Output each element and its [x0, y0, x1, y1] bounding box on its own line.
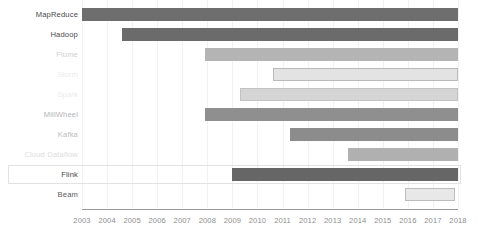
bar-flink[interactable] [232, 168, 458, 181]
gridline-2003 [82, 0, 83, 208]
gridline-2018 [458, 0, 459, 208]
bar-mapreduce[interactable] [82, 8, 458, 21]
category-label-column: MapReduceHadoopFlumeStormSparkMillWheelK… [0, 0, 82, 208]
row-label-spark: Spark [0, 91, 78, 99]
row-label-mapreduce: MapReduce [0, 11, 78, 19]
plot-area [82, 0, 458, 208]
gantt-timeline-chart: MapReduceHadoopFlumeStormSparkMillWheelK… [0, 0, 478, 235]
bar-flume[interactable] [205, 48, 458, 61]
bar-storm[interactable] [273, 68, 458, 81]
bar-kafka[interactable] [290, 128, 458, 141]
x-axis-line [82, 209, 458, 210]
x-tick-2018: 2018 [443, 216, 473, 225]
bar-cloud-dataflow[interactable] [348, 148, 458, 161]
bar-spark[interactable] [240, 88, 458, 101]
bar-hadoop[interactable] [122, 28, 458, 41]
row-label-cloud-dataflow: Cloud Dataflow [0, 151, 78, 159]
row-label-millwheel: MillWheel [0, 111, 78, 119]
bar-beam[interactable] [405, 188, 455, 201]
row-label-storm: Storm [0, 71, 78, 79]
gridline-2004 [107, 0, 108, 208]
row-label-flume: Flume [0, 51, 78, 59]
bar-millwheel[interactable] [205, 108, 458, 121]
row-label-kafka: Kafka [0, 131, 78, 139]
row-label-hadoop: Hadoop [0, 31, 78, 39]
row-label-flink: Flink [0, 171, 78, 179]
row-label-beam: Beam [0, 191, 78, 199]
